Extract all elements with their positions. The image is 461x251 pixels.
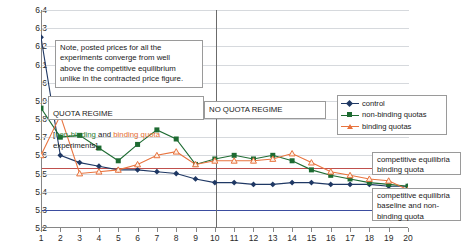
x-tick-label: 4 [90, 234, 108, 243]
data-point [135, 161, 141, 166]
data-point [41, 34, 44, 40]
x-tick-mark [41, 228, 42, 232]
annotation-ce-baseline: competitive equilibria baseline and non-… [372, 188, 461, 221]
x-tick-label: 3 [71, 234, 89, 243]
x-tick-label: 5 [109, 234, 127, 243]
legend-triangle-marker-icon [341, 122, 359, 132]
data-point [289, 151, 295, 156]
and-text: and [96, 130, 113, 139]
data-point [328, 182, 334, 188]
legend-item-non-binding-quotas[interactable]: non-binding quotas [341, 110, 443, 122]
x-tick-label: 19 [380, 234, 398, 243]
data-point [154, 169, 160, 175]
data-point [135, 167, 141, 173]
x-tick-label: 12 [244, 234, 262, 243]
legend-item-binding-quotas[interactable]: binding quotas [341, 121, 443, 133]
legend-item-control[interactable]: control [341, 98, 443, 110]
x-tick-mark [234, 228, 235, 232]
x-tick-label: 18 [360, 234, 378, 243]
x-tick-label: 16 [322, 234, 340, 243]
x-tick-mark [99, 228, 100, 232]
data-point [309, 180, 315, 186]
x-tick-label: 15 [302, 234, 320, 243]
x-tick-mark [138, 228, 139, 232]
x-tick-mark [253, 228, 254, 232]
x-tick-mark [389, 228, 390, 232]
data-point [212, 180, 218, 186]
annotation-ce-binding-quota: competitive equilibria binding quota [372, 152, 461, 175]
x-tick-label: 7 [148, 234, 166, 243]
data-point [328, 169, 334, 174]
experiments-text: experiments]. [53, 141, 100, 150]
data-point [290, 158, 295, 163]
x-tick-label: 6 [129, 234, 147, 243]
quota-regime-subtitle: [non-binding and binding quota experimen… [53, 130, 199, 151]
x-tick-label: 8 [167, 234, 185, 243]
legend-label: binding quotas [362, 123, 411, 131]
data-point [308, 160, 314, 165]
x-tick-label: 13 [264, 234, 282, 243]
x-tick-mark [215, 228, 216, 232]
legend-label: control [362, 100, 385, 108]
data-point [251, 182, 257, 188]
annotation-quota-regime: QUOTA REGIME [non-binding and binding qu… [48, 96, 204, 120]
data-point [347, 182, 353, 188]
x-tick-mark [176, 228, 177, 232]
annotation-note: Note, posted prices for all the experime… [55, 40, 203, 88]
x-tick-label: 2 [51, 234, 69, 243]
legend-diamond-marker-icon [341, 99, 359, 109]
legend-square-marker-icon [341, 110, 359, 120]
x-tick-mark [60, 228, 61, 232]
x-tick-label: 17 [341, 234, 359, 243]
legend-label: non-binding quotas [362, 111, 427, 119]
x-tick-mark [350, 228, 351, 232]
data-point [289, 180, 295, 186]
data-point [231, 180, 237, 186]
posted-price-convergence-chart: 6.46.36.26.165.95.85.75.65.55.45.35.2 12… [0, 0, 461, 251]
x-tick-mark [408, 228, 409, 232]
data-point [41, 106, 44, 111]
x-tick-mark [369, 228, 370, 232]
x-tick-mark [196, 228, 197, 232]
chart-legend: controlnon-binding quotasbinding quotas [337, 95, 447, 135]
binding-quota-text: binding quota [113, 130, 160, 139]
x-tick-mark [80, 228, 81, 232]
x-tick-mark [157, 228, 158, 232]
x-tick-label: 11 [225, 234, 243, 243]
data-point [309, 167, 314, 172]
x-tick-mark [292, 228, 293, 232]
x-tick-mark [118, 228, 119, 232]
x-tick-mark [331, 228, 332, 232]
x-tick-label: 20 [399, 234, 417, 243]
annotation-no-quota-regime: NO QUOTA REGIME [204, 101, 326, 119]
data-point [193, 176, 199, 182]
data-point [173, 171, 179, 177]
x-tick-mark [311, 228, 312, 232]
non-binding-text: non-binding [55, 130, 96, 139]
x-tick-label: 9 [187, 234, 205, 243]
quota-regime-title: QUOTA REGIME [53, 109, 199, 119]
x-tick-mark [273, 228, 274, 232]
x-tick-label: 1 [32, 234, 50, 243]
data-point [270, 182, 276, 188]
x-tick-label: 10 [206, 234, 224, 243]
x-tick-label: 14 [283, 234, 301, 243]
